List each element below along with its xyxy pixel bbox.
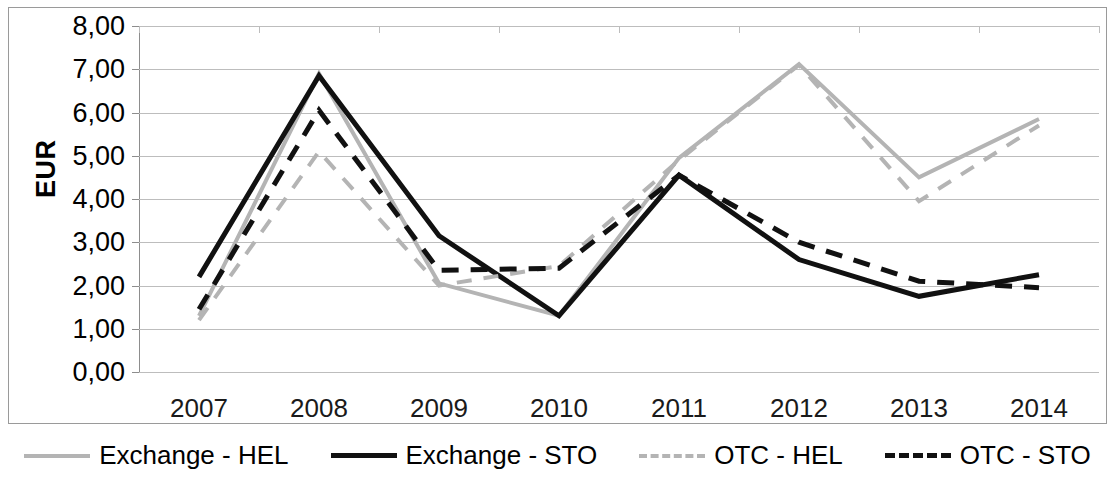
x-axis-tick-label: 2011 — [651, 393, 707, 424]
y-axis-tick-label: 1,00 — [72, 313, 125, 344]
plot-area: 0,001,002,003,004,005,006,007,008,00 200… — [139, 26, 1099, 372]
y-axis-tick-mark — [132, 156, 139, 157]
legend-label-otc-sto: OTC - STO — [960, 440, 1091, 471]
y-axis-title: EUR — [31, 139, 62, 198]
y-axis-tick-label: 5,00 — [72, 140, 125, 171]
plot-frame: EUR 0,001,002,003,004,005,006,007,008,00… — [8, 7, 1107, 424]
x-axis-tick-label: 2007 — [170, 393, 228, 424]
legend-swatch-otc-hel-icon — [639, 454, 705, 458]
legend-label-exchange-sto: Exchange - STO — [406, 440, 598, 471]
y-axis-tick-label: 4,00 — [72, 184, 125, 215]
line-chart-figure: EUR 0,001,002,003,004,005,006,007,008,00… — [0, 0, 1115, 504]
y-axis-tick-mark — [132, 242, 139, 243]
gridline — [139, 372, 1099, 373]
legend-item-otc-sto: OTC - STO — [885, 440, 1091, 471]
y-axis-tick-label: 8,00 — [72, 11, 125, 42]
series-line-otc-sto — [199, 110, 1039, 309]
legend-swatch-exchange-hel-icon — [24, 454, 90, 458]
y-axis-tick-mark — [132, 329, 139, 330]
x-axis-tick-mark — [1099, 26, 1100, 33]
x-axis-tick-label: 2008 — [290, 393, 348, 424]
y-axis-tick-mark — [132, 113, 139, 114]
y-axis-tick-mark — [132, 286, 139, 287]
legend-item-otc-hel: OTC - HEL — [639, 440, 843, 471]
x-axis-tick-label: 2010 — [530, 393, 588, 424]
x-axis-tick-label: 2009 — [410, 393, 468, 424]
y-axis-tick-label: 6,00 — [72, 97, 125, 128]
legend-label-otc-hel: OTC - HEL — [714, 440, 843, 471]
legend-label-exchange-hel: Exchange - HEL — [99, 440, 288, 471]
x-axis-tick-label: 2013 — [890, 393, 948, 424]
y-axis-tick-label: 3,00 — [72, 227, 125, 258]
y-axis-tick-mark — [132, 372, 139, 373]
y-axis-tick-label: 7,00 — [72, 54, 125, 85]
x-axis-tick-label: 2014 — [1010, 393, 1068, 424]
y-axis-tick-mark — [132, 199, 139, 200]
legend-item-exchange-hel: Exchange - HEL — [24, 440, 288, 471]
y-axis-tick-mark — [132, 26, 139, 27]
chart-legend: Exchange - HEL Exchange - STO OTC - HEL … — [8, 440, 1107, 471]
y-axis-tick-label: 2,00 — [72, 270, 125, 301]
legend-swatch-exchange-sto-icon — [331, 453, 397, 458]
x-axis-tick-label: 2012 — [770, 393, 828, 424]
legend-item-exchange-sto: Exchange - STO — [331, 440, 598, 471]
y-axis-tick-mark — [132, 69, 139, 70]
y-axis-tick-label: 0,00 — [72, 357, 125, 388]
legend-swatch-otc-sto-icon — [885, 453, 951, 458]
series-lines-group — [139, 26, 1099, 372]
